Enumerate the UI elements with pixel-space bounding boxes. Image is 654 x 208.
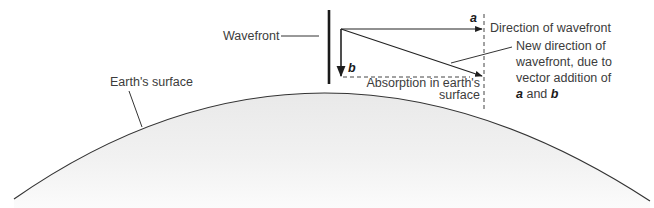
vector-b-label: b	[348, 61, 356, 76]
diagram-canvas: Wavefront a b Direction of wavefront New…	[0, 0, 654, 208]
absorption-label: Absorption in earth's surface	[353, 77, 480, 101]
direction-label: Direction of wavefront	[490, 21, 611, 36]
earth-surface-leader	[129, 91, 142, 127]
wavefront-label: Wavefront	[223, 29, 280, 44]
earth-surface-label: Earth's surface	[110, 75, 193, 90]
vector-a-label: a	[470, 11, 477, 26]
new-direction-leader	[451, 47, 512, 63]
new-direction-label: New direction of wavefront, due to vecto…	[516, 38, 612, 102]
earth-body	[14, 93, 650, 208]
resultant-arrow	[341, 29, 482, 76]
